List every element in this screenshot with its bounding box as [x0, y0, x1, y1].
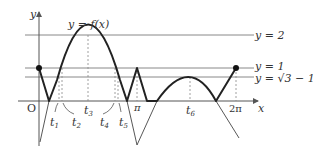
tick-pi: π — [133, 102, 141, 113]
tick-t3: t3 — [84, 104, 93, 118]
end-point-dot — [233, 65, 239, 71]
tick-t4: t4 — [100, 116, 109, 130]
tick-t2: t2 — [72, 116, 81, 130]
graph-svg: y y = f(x) y = 2 y = 1 y = √3 − 1 O x t1… — [0, 0, 327, 148]
tick-2pi: 2π — [229, 103, 242, 114]
tick-t6: t6 — [186, 104, 195, 118]
curve-y-equals-f-x — [39, 25, 236, 102]
line-y2-label: y = 2 — [254, 29, 284, 42]
y-axis-label: y — [29, 8, 37, 21]
curve-label: y = f(x) — [67, 18, 109, 31]
tick-t5: t5 — [119, 116, 128, 130]
line-sqrt3-label: y = √3 − 1 — [254, 72, 315, 85]
function-graph-figure: y y = f(x) y = 2 y = 1 y = √3 − 1 O x t1… — [0, 0, 327, 148]
x-axis-label: x — [258, 102, 265, 115]
tick-t1: t1 — [50, 116, 59, 130]
origin-label: O — [27, 102, 36, 115]
start-point-dot — [36, 65, 42, 71]
